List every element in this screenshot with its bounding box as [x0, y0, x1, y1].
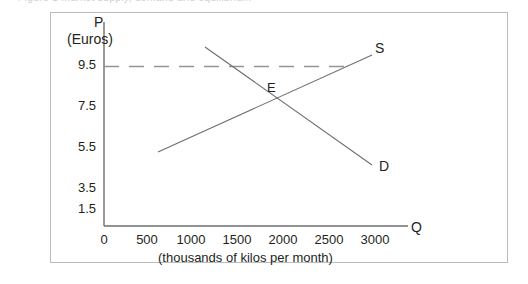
y-tick-label-1-5: 1.5: [48, 201, 96, 216]
supply-curve-label: S: [375, 40, 384, 56]
x-axis-title: Q: [411, 219, 422, 235]
y-tick-label-5-5: 5.5: [48, 139, 96, 154]
y-tick-label-9-5: 9.5: [48, 57, 96, 72]
demand-curve: [205, 47, 372, 165]
y-axis-unit-label: (Euros): [67, 31, 113, 47]
x-tick-label-3000: 3000: [345, 232, 405, 247]
y-tick-label-7-5: 7.5: [48, 98, 96, 113]
y-axis-title: P: [94, 14, 103, 30]
x-axis-unit-caption: (thousands of kilos per month): [158, 250, 333, 265]
demand-curve-label: D: [379, 158, 389, 174]
y-tick-label-3-5: 3.5: [48, 180, 96, 195]
equilibrium-point-label: E: [267, 80, 276, 95]
supply-curve: [158, 55, 372, 152]
